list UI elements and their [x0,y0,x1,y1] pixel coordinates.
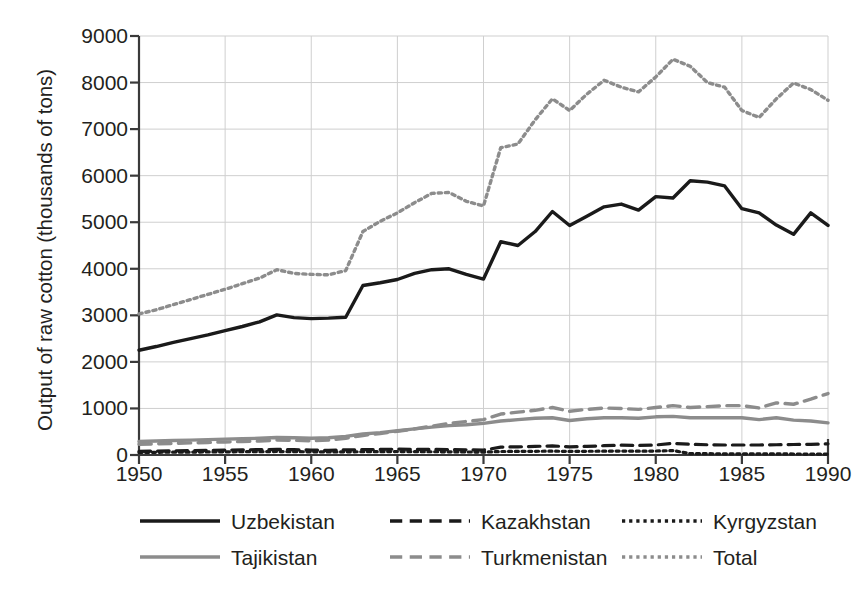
legend-item-uzbekistan[interactable]: Uzbekistan [138,503,388,539]
legend-item-turkmenistan[interactable]: Turkmenistan [388,539,620,575]
legend-swatch-dotted-line-icon [620,551,704,563]
series-line-kyrgyzstan [139,451,828,455]
legend-label: Total [713,547,757,568]
legend-swatch-dashed-line-icon [388,515,472,527]
legend-label: Kazakhstan [481,511,591,532]
legend-item-kazakhstan[interactable]: Kazakhstan [388,503,620,539]
legend-label: Uzbekistan [231,511,335,532]
legend-item-tajikistan[interactable]: Tajikistan [138,539,388,575]
legend-swatch-dashed-line-icon [388,551,472,563]
legend-swatch-solid-line-icon [138,551,222,563]
legend-row: TajikistanTurkmenistanTotal [138,539,858,575]
plot-area [0,0,867,589]
legend-label: Tajikistan [231,547,317,568]
cotton-output-line-chart: Output of raw cotton (thousands of tons)… [0,0,867,589]
legend-item-total[interactable]: Total [620,539,850,575]
chart-legend: UzbekistanKazakhstanKyrgyzstanTajikistan… [138,503,858,579]
legend-label: Kyrgyzstan [713,511,817,532]
legend-row: UzbekistanKazakhstanKyrgyzstan [138,503,858,539]
legend-item-kyrgyzstan[interactable]: Kyrgyzstan [620,503,850,539]
legend-swatch-dotted-line-icon [620,515,704,527]
legend-swatch-solid-line-icon [138,515,222,527]
legend-label: Turkmenistan [481,547,607,568]
